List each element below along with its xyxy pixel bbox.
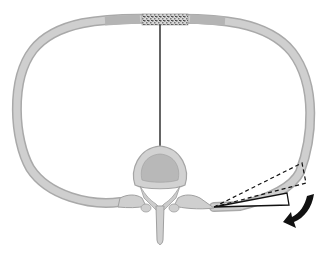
rib-depressed-solid xyxy=(214,193,289,207)
articular-process-left xyxy=(141,204,151,212)
sternum xyxy=(142,14,188,25)
costal-cartilage-left xyxy=(105,19,140,21)
articular-process-right xyxy=(169,204,179,212)
transverse-process-right xyxy=(174,195,214,209)
spinous-process xyxy=(156,206,164,245)
thorax-diagram xyxy=(0,0,330,262)
costal-cartilage-right xyxy=(190,19,225,21)
